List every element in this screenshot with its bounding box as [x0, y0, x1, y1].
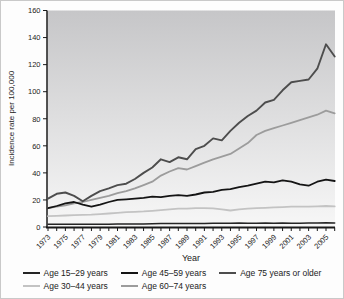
x-tick-label: 1995 [225, 233, 243, 251]
legend-item-age-45-59: Age 45–59 years [121, 267, 206, 278]
y-tick-label: 140 [28, 33, 41, 42]
y-axis-title: Incidence rate per 100,000 [7, 58, 18, 180]
line-swatch-icon [219, 272, 236, 274]
x-tick-label: 1977 [69, 233, 87, 251]
x-tick-label: 1973 [34, 233, 52, 251]
legend-label: Age 60–74 years [142, 281, 206, 291]
y-tick-label: 20 [32, 196, 40, 205]
x-tick-label: 1997 [243, 233, 261, 251]
line-swatch-icon [121, 285, 138, 287]
legend-item-age-15-29: Age 15–29 years [23, 267, 108, 278]
line-swatch-icon [23, 272, 40, 274]
legend: Age 15–29 years Age 30–44 years Age 45–5… [1, 267, 343, 291]
x-tick-label: 2001 [278, 233, 296, 251]
figure: 0204060801001201401601973197519771979198… [0, 0, 344, 299]
y-tick-label: 60 [32, 142, 40, 151]
legend-column-1: Age 15–29 years Age 30–44 years [23, 267, 108, 291]
legend-column-3: Age 75 years or older [219, 267, 321, 291]
x-tick-label: 2003 [295, 233, 313, 251]
x-tick-label: 1987 [156, 233, 174, 251]
legend-item-age-75-older: Age 75 years or older [219, 267, 321, 278]
legend-item-age-60-74: Age 60–74 years [121, 280, 206, 291]
legend-label: Age 30–44 years [44, 281, 108, 291]
y-tick-label: 0 [36, 223, 40, 232]
legend-label: Age 15–29 years [44, 268, 108, 278]
x-tick-label: 1979 [86, 233, 104, 251]
x-tick-label: 1989 [173, 233, 191, 251]
x-tick-label: 1975 [52, 233, 70, 251]
y-tick-label: 80 [32, 115, 40, 124]
y-tick-label: 120 [28, 60, 41, 69]
line-swatch-icon [121, 272, 138, 274]
legend-column-2: Age 45–59 years Age 60–74 years [121, 267, 206, 291]
line-swatch-icon [23, 285, 40, 287]
x-tick-label: 2005 [312, 233, 330, 251]
x-axis-title: Year [47, 253, 335, 263]
y-tick-label: 160 [28, 6, 41, 15]
y-tick-label: 40 [32, 169, 40, 178]
x-tick-label: 1993 [208, 233, 226, 251]
x-tick-label: 1983 [121, 233, 139, 251]
x-tick-label: 1981 [104, 233, 122, 251]
legend-item-age-30-44: Age 30–44 years [23, 280, 108, 291]
x-tick-label: 1999 [260, 233, 278, 251]
x-tick-label: 1985 [139, 233, 157, 251]
legend-label: Age 45–59 years [142, 268, 206, 278]
y-tick-label: 100 [28, 87, 41, 96]
legend-label: Age 75 years or older [240, 268, 321, 278]
x-tick-label: 1991 [191, 233, 209, 251]
